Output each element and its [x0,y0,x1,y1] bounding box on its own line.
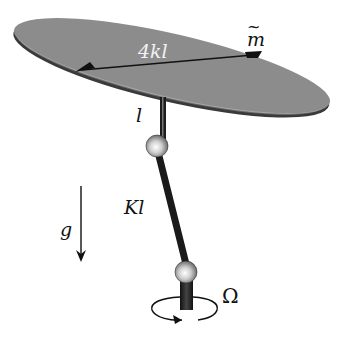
upper-joint-ball [146,135,168,157]
lower-rod [157,148,187,268]
disk [6,0,337,138]
lower-joint-ball [175,261,197,283]
upper-rod [160,97,166,139]
point-mass-right [245,51,262,58]
label-rotation: Ω [222,284,239,308]
spinning-disk-diagram: 4kl m ~ l Kl g Ω [0,0,345,347]
label-upper-rod: l [136,104,142,126]
label-lower-rod: Kl [123,196,144,218]
label-gravity: g [60,218,72,240]
gravity-arrow-icon [76,186,86,262]
label-diameter: 4kl [137,40,168,62]
label-mass-tilde: ~ [247,17,260,36]
